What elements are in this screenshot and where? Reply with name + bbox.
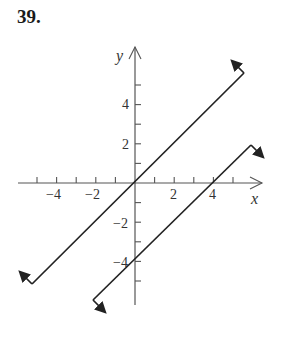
line-y-equals-x	[20, 61, 244, 284]
y-tick-label: −2	[113, 216, 128, 231]
hook-arrow-icon	[232, 61, 244, 73]
y-tick-label: 2	[122, 137, 129, 152]
x-tick-label: −4	[46, 187, 61, 202]
x-tick-labels: −4 −2 2 4	[46, 187, 216, 202]
y-axis	[129, 47, 141, 305]
y-axis-label: y	[114, 47, 124, 65]
hook-arrow-icon	[93, 300, 105, 312]
x-tick-label: 4	[209, 187, 216, 202]
x-tick-label: 2	[170, 187, 177, 202]
hook-arrow-icon	[251, 145, 263, 157]
y-tick-label: 4	[122, 97, 129, 112]
graph: −4 −2 2 4 4 2 −2 −4 y x	[0, 0, 288, 337]
hook-arrow-icon	[20, 272, 32, 284]
x-tick-label: −2	[85, 187, 100, 202]
x-axis-label: x	[250, 190, 258, 207]
